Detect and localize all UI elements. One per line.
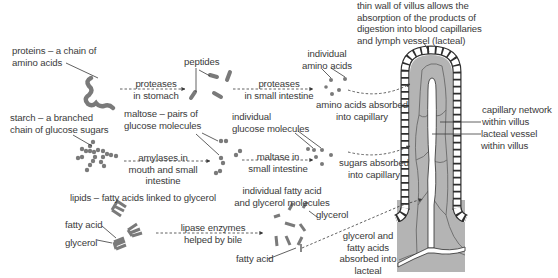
amino-acids (324, 77, 347, 96)
starch-label: starch – a branched chain of glucose sug… (10, 112, 109, 135)
enzyme-line1: proteases (126, 78, 186, 90)
amylases-label: amylases in mouth and small intestine (124, 152, 202, 187)
lipids-title: lipids – fatty acids linked to glycerol (70, 192, 216, 204)
fatty-acid-glycerol-molecules (274, 202, 307, 246)
absorb-line2: fatty acids (336, 242, 400, 254)
product-line2: amino acids (292, 60, 362, 72)
sugars-absorbed-label: sugars absorbed into capillary (334, 157, 414, 180)
enzyme-line1: maltase in (240, 151, 316, 163)
starch-chain (76, 140, 118, 172)
lipid-molecules (112, 200, 142, 249)
product-line1: individual fatty acid (232, 185, 332, 197)
wall-line2: absorption of the products of (357, 12, 482, 24)
wall-line4: and lymph vessel (lacteal) (357, 35, 482, 47)
product-line2: and glycerol molecules (232, 197, 332, 209)
enzyme-line1: amylases in (124, 152, 202, 164)
individual-amino-acids-label: individual amino acids (292, 48, 362, 71)
peptides-label: peptides (184, 56, 219, 68)
absorb-line2: into capillary (312, 111, 412, 123)
villus-wall-label: thin wall of villus allows the absorptio… (357, 0, 482, 46)
capillary-line2: within villus (482, 116, 552, 128)
maltose-label: maltose – pairs of glucose molecules (124, 108, 201, 131)
lacteal-line1: lacteal vessel (481, 128, 537, 140)
enzyme-line3: intestine (124, 175, 202, 187)
absorb-line1: glycerol and (336, 230, 400, 242)
lacteal-vessel-label: lacteal vessel within villus (481, 128, 537, 151)
enzyme-line2: helped by bile (168, 234, 258, 246)
maltose (214, 139, 242, 175)
product-line2: glucose molecules (232, 123, 309, 135)
capillary-network-label: capillary network within villus (482, 104, 552, 127)
enzyme-line2: small intestine (240, 163, 316, 175)
enzyme-line1: proteases (236, 78, 322, 90)
absorb-line2: into capillary (334, 169, 414, 181)
enzyme-line1: lipase enzymes (168, 222, 258, 234)
enzyme-line2: mouth and small (124, 164, 202, 176)
enzyme-line2: in small intestine (236, 90, 322, 102)
digestion-absorption-diagram: proteins – a chain of amino acids protea… (0, 0, 558, 278)
enzyme-line2: in stomach (126, 90, 186, 102)
starch-label-line1: starch – a branched (10, 112, 109, 124)
lacteal-line2: within villus (481, 140, 537, 152)
lipase-label: lipase enzymes helped by bile (168, 222, 258, 245)
fatty-acid-glycerol-molecules-label: individual fatty acid and glycerol molec… (232, 185, 332, 208)
starch-label-line2: chain of glucose sugars (10, 124, 109, 136)
fatty-acid-label: fatty acid (65, 219, 102, 231)
wall-line3: digestion into blood capillaries (357, 23, 482, 35)
glycerol-label: glycerol (65, 237, 97, 249)
product-line1: individual (292, 48, 362, 60)
proteins-label-line2: amino acids (12, 57, 96, 69)
absorb-line4: lacteal (336, 265, 400, 277)
proteases-stomach-label: proteases in stomach (126, 78, 186, 101)
product-glycerol-label: glycerol (316, 209, 348, 221)
proteases-small-intestine-label: proteases in small intestine (236, 78, 322, 101)
wall-line1: thin wall of villus allows the (357, 0, 482, 12)
absorb-line1: sugars absorbed (334, 157, 414, 169)
absorb-line3: absorbed into (336, 253, 400, 265)
product-fatty-acid-label: fatty acid (236, 253, 273, 265)
individual-glucose-label: individual glucose molecules (232, 111, 309, 134)
maltose-line1: maltose – pairs of (124, 108, 201, 120)
proteins-label: proteins – a chain of amino acids (12, 45, 96, 68)
protein-chain (86, 78, 113, 108)
maltose-line2: glucose molecules (124, 120, 201, 132)
amino-acids-absorbed-label: amino acids absorbed into capillary (312, 99, 412, 122)
lacteal-absorbed-label: glycerol and fatty acids absorbed into l… (336, 230, 400, 276)
capillary-line1: capillary network (482, 104, 552, 116)
maltase-label: maltase in small intestine (240, 151, 316, 174)
product-line1: individual (232, 111, 309, 123)
peptides (191, 72, 230, 98)
absorb-line1: amino acids absorbed (312, 99, 412, 111)
proteins-label-line1: proteins – a chain of (12, 45, 96, 57)
